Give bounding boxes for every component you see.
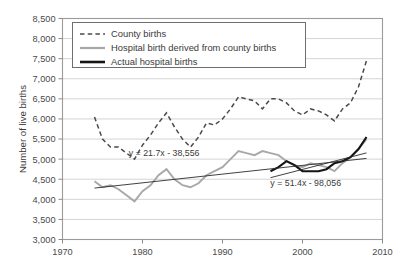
regression-equation-label: y = 51.4x - 98,056	[270, 178, 341, 188]
x-axis-tick-label: 1980	[132, 247, 152, 257]
y-axis-tick-label: 7,500	[33, 54, 56, 64]
live-births-line-chart: 3,0003,5004,0004,5005,0005,5006,0006,500…	[0, 0, 420, 274]
y-axis-tick-label: 4,000	[33, 195, 56, 205]
y-axis-tick-label: 6,500	[33, 94, 56, 104]
y-axis-tick-label: 8,500	[33, 14, 56, 24]
x-axis-tick-label: 2010	[372, 247, 392, 257]
y-axis-tick-label: 7,000	[33, 74, 56, 84]
y-axis-tick-label: 5,000	[33, 155, 56, 165]
y-axis-tick-label: 3,000	[33, 235, 56, 245]
y-axis-tick-label: 6,000	[33, 114, 56, 124]
y-axis-title: Number of live births	[17, 85, 28, 173]
y-axis-tick-label: 8,000	[33, 34, 56, 44]
x-axis-tick-label: 2000	[292, 247, 312, 257]
regression-equation-label: y = 21.7x - 38,556	[129, 148, 200, 158]
x-axis-tick-label: 1970	[52, 247, 72, 257]
legend-item-label: Hospital birth derived from county birth…	[111, 42, 276, 53]
legend-item-label: County births	[111, 28, 167, 39]
chart-container: 3,0003,5004,0004,5005,0005,5006,0006,500…	[0, 0, 420, 274]
y-axis-tick-label: 5,500	[33, 134, 56, 144]
chart-legend: County birthsHospital birth derived from…	[73, 23, 306, 68]
y-axis-tick-label: 3,500	[33, 215, 56, 225]
x-axis-tick-label: 1990	[212, 247, 232, 257]
legend-item-label: Actual hospital births	[111, 56, 198, 67]
y-axis-tick-label: 4,500	[33, 175, 56, 185]
